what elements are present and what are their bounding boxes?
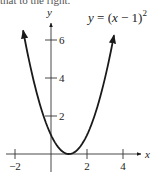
x-tick-label: −2 — [9, 160, 21, 172]
y-tick-label: 2 — [59, 110, 65, 122]
equation-exponent: 2 — [142, 8, 147, 18]
parabola-chart: x y −224 246 y = (x − 1)2 — [0, 0, 154, 178]
parabola-curve — [23, 30, 114, 154]
equation-rhs: (x − 1) — [108, 10, 143, 25]
y-tick-label: 4 — [59, 72, 65, 84]
x-axis-label: x — [144, 148, 150, 160]
x-tick-label: 4 — [120, 160, 126, 172]
y-ticks: 246 — [45, 34, 65, 122]
x-ticks: −224 — [9, 149, 126, 172]
y-axis-label: y — [46, 6, 52, 18]
equation-label: y = (x − 1)2 — [86, 8, 147, 25]
x-tick-label: 2 — [84, 160, 90, 172]
y-tick-label: 6 — [59, 34, 65, 46]
